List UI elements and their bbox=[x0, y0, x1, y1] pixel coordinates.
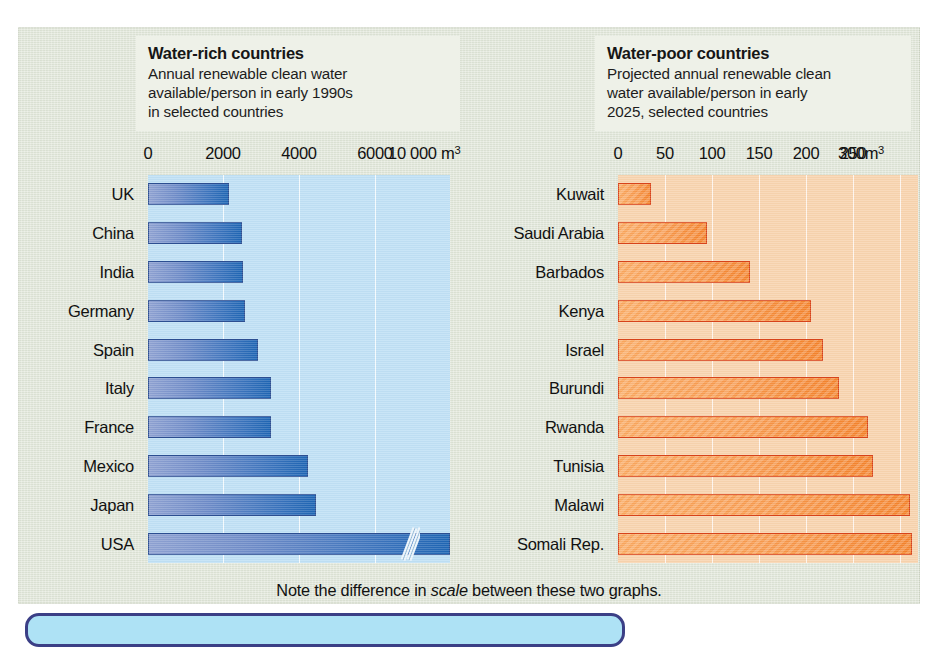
right-x-axis: 050100150200250300m3 bbox=[478, 144, 920, 166]
x-tick-label: 2000 bbox=[205, 144, 241, 163]
category-label: Spain bbox=[93, 339, 134, 361]
x-tick-label: 4000 bbox=[281, 144, 317, 163]
bar bbox=[148, 455, 308, 477]
page-top-margin bbox=[0, 0, 938, 12]
x-tick-label: 200 bbox=[793, 144, 820, 163]
gridline bbox=[375, 175, 376, 563]
right-panel-subtitle-line-2: water available/person in early bbox=[607, 83, 901, 102]
right-panel-subtitle-line-3: 2025, selected countries bbox=[607, 102, 901, 121]
left-panel-title: Water-rich countries bbox=[148, 43, 450, 64]
right-plot-area bbox=[618, 175, 918, 563]
bar bbox=[618, 416, 868, 438]
x-tick-label: 300m3 bbox=[838, 144, 884, 163]
category-label: Somali Rep. bbox=[517, 533, 604, 555]
category-label: Mexico bbox=[83, 455, 134, 477]
left-x-axis: 020004000600010 000 m3 bbox=[18, 144, 478, 166]
left-plot-area bbox=[148, 175, 450, 563]
right-caption-box: Water-poor countries Projected annual re… bbox=[595, 36, 911, 131]
x-tick-label: 50 bbox=[656, 144, 674, 163]
bar bbox=[148, 494, 316, 516]
x-tick-label: 100 bbox=[699, 144, 726, 163]
x-tick-label: 0 bbox=[144, 144, 153, 163]
bar bbox=[618, 183, 651, 205]
category-label: Italy bbox=[105, 377, 134, 399]
category-label: Rwanda bbox=[545, 416, 604, 438]
category-label: Japan bbox=[90, 494, 134, 516]
category-label: India bbox=[99, 261, 134, 283]
category-label: Israel bbox=[565, 339, 604, 361]
note-prefix: Note the difference in bbox=[276, 581, 430, 599]
bar bbox=[148, 377, 271, 399]
left-caption-box: Water-rich countries Annual renewable cl… bbox=[136, 36, 460, 131]
bar bbox=[618, 300, 811, 322]
bar bbox=[618, 533, 912, 555]
bar bbox=[148, 222, 242, 244]
bar bbox=[148, 261, 243, 283]
bar bbox=[618, 377, 839, 399]
category-label: UK bbox=[112, 183, 134, 205]
figure-frame: Water-rich countries Annual renewable cl… bbox=[18, 27, 920, 604]
category-label: Barbados bbox=[535, 261, 604, 283]
category-label: Burundi bbox=[549, 377, 604, 399]
bar bbox=[148, 533, 450, 555]
right-category-labels: KuwaitSaudi ArabiaBarbadosKenyaIsraelBur… bbox=[478, 175, 612, 563]
category-label: China bbox=[92, 222, 134, 244]
x-tick-label: 0 bbox=[614, 144, 623, 163]
category-label: Kuwait bbox=[556, 183, 604, 205]
panel-water-rich: Water-rich countries Annual renewable cl… bbox=[18, 27, 478, 604]
note-suffix: between these two graphs. bbox=[468, 581, 662, 599]
category-label: Saudi Arabia bbox=[513, 222, 604, 244]
figure-note: Note the difference in scale between the… bbox=[18, 581, 920, 600]
category-label: Malawi bbox=[554, 494, 604, 516]
bar bbox=[618, 261, 750, 283]
left-panel-subtitle-line-1: Annual renewable clean water bbox=[148, 64, 450, 83]
left-category-labels: UKChinaIndiaGermanySpainItalyFranceMexic… bbox=[18, 175, 142, 563]
bar bbox=[148, 300, 245, 322]
right-panel-title: Water-poor countries bbox=[607, 43, 901, 64]
following-callout-box bbox=[25, 613, 625, 647]
bar bbox=[618, 455, 873, 477]
bar bbox=[618, 222, 707, 244]
bar bbox=[148, 183, 229, 205]
bar bbox=[148, 416, 271, 438]
bar bbox=[618, 494, 910, 516]
x-tick-label: 10 000 m3 bbox=[388, 144, 460, 163]
bar bbox=[618, 339, 823, 361]
category-label: Germany bbox=[68, 300, 134, 322]
x-tick-label: 150 bbox=[746, 144, 773, 163]
category-label: Tunisia bbox=[553, 455, 604, 477]
left-panel-subtitle-line-2: available/person in early 1990s bbox=[148, 83, 450, 102]
category-label: Kenya bbox=[558, 300, 604, 322]
category-label: France bbox=[84, 416, 134, 438]
category-label: USA bbox=[101, 533, 134, 555]
note-emphasis: scale bbox=[431, 581, 468, 599]
left-panel-subtitle-line-3: in selected countries bbox=[148, 102, 450, 121]
panel-water-poor: Water-poor countries Projected annual re… bbox=[478, 27, 920, 604]
right-panel-subtitle-line-1: Projected annual renewable clean bbox=[607, 64, 901, 83]
bar bbox=[148, 339, 258, 361]
